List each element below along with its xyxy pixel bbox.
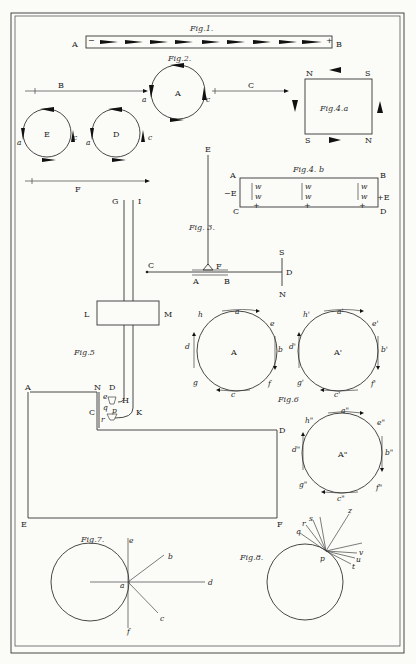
fig8-r: r bbox=[302, 519, 306, 528]
fig4b-title: Fig.4. b bbox=[292, 165, 324, 174]
fig2-label-a: a bbox=[142, 95, 146, 104]
fig7-c: c bbox=[160, 614, 165, 623]
fig6-c1-e: e bbox=[270, 319, 275, 328]
fig6-c2-h: h' bbox=[303, 310, 310, 319]
fig4a-nw: N bbox=[306, 69, 313, 78]
fig6-c1-a: a bbox=[235, 307, 239, 316]
fig6-c3-e: e" bbox=[377, 418, 385, 427]
fig6-c2-d: d' bbox=[289, 342, 296, 351]
fig6-c2-a: a' bbox=[337, 307, 344, 316]
fig5-i: I bbox=[138, 197, 141, 206]
fig4b-w3: w bbox=[305, 182, 312, 191]
fig7-f: f bbox=[126, 627, 131, 636]
fig4b-c: C bbox=[233, 207, 239, 216]
fig2-label-c-line: C bbox=[248, 81, 254, 90]
fig2-center-a: A bbox=[174, 89, 181, 98]
fig4b-plus3: + bbox=[359, 201, 366, 210]
fig5-a: A bbox=[24, 383, 31, 392]
fig4b: Fig.4. b A B C D −E +E w w w w w w + + + bbox=[224, 165, 390, 216]
fig4b-right-e: +E bbox=[377, 193, 390, 202]
fig5-m: M bbox=[164, 310, 172, 319]
fig5-n: N bbox=[94, 383, 101, 392]
fig6-c1-center: A bbox=[230, 348, 237, 357]
fig2-title: Fig.2. bbox=[167, 54, 191, 63]
fig3: E Fig. 3. C A B F S D N bbox=[146, 145, 293, 299]
fig2-center-e: E bbox=[44, 130, 50, 139]
fig1-plus: + bbox=[326, 36, 333, 45]
fig6-c3-a: a" bbox=[341, 406, 349, 415]
fig4b-d: D bbox=[380, 207, 386, 216]
fig6-c3-f: f" bbox=[375, 483, 382, 492]
fig6-c3-g: g" bbox=[299, 480, 307, 489]
fig1-label-a: A bbox=[71, 40, 78, 49]
fig5-c: C bbox=[89, 408, 95, 417]
fig4a-title: Fig.4.a bbox=[319, 104, 348, 113]
fig4a-ne: S bbox=[365, 69, 370, 78]
fig2-label-f: F bbox=[75, 185, 81, 194]
fig8: Fig.8. p q r s z v u t bbox=[239, 506, 364, 620]
fig2: Fig.2. A a c B C E a c D a c F bbox=[17, 54, 289, 194]
fig4b-w1: w bbox=[255, 182, 262, 191]
fig5: G I L M Fig.5 A N D H C K e q p r D E F bbox=[21, 197, 285, 529]
fig1-label-b: B bbox=[336, 40, 342, 49]
fig4b-a: A bbox=[229, 171, 236, 180]
fig6-c2-b: b' bbox=[381, 345, 388, 354]
fig5-e: e bbox=[103, 392, 108, 401]
fig6-c1-b: b bbox=[278, 345, 283, 354]
fig4b-w6: w bbox=[361, 192, 368, 201]
fig3-a: A bbox=[192, 277, 199, 286]
fig6-title: Fig.6 bbox=[277, 395, 299, 404]
fig3-n: N bbox=[279, 290, 286, 299]
fig6-c1-f: f bbox=[267, 379, 272, 388]
fig4b-plus2: + bbox=[304, 201, 311, 210]
fig6-c1-d: d bbox=[185, 342, 190, 351]
fig6-c3-c: c" bbox=[337, 494, 345, 503]
fig1-arrows bbox=[100, 40, 322, 44]
fig7: Fig.7. a b c d e f bbox=[51, 535, 213, 636]
fig4a: N S S N Fig.4.a bbox=[292, 67, 383, 145]
fig1: Fig.1. A B − + bbox=[71, 24, 342, 49]
fig3-f: F bbox=[216, 262, 222, 271]
fig6-c2-c: c' bbox=[334, 390, 340, 399]
fig6-c1-g: g bbox=[193, 378, 198, 387]
fig6-c2-g: g' bbox=[297, 378, 304, 387]
fig2-d-c: c bbox=[148, 133, 153, 142]
fig5-k: K bbox=[136, 408, 143, 417]
fig5-e-corner: E bbox=[21, 520, 27, 529]
fig3-title: Fig. 3. bbox=[188, 223, 215, 232]
fig5-h: H bbox=[122, 396, 129, 405]
fig1-minus: − bbox=[88, 36, 95, 45]
fig6-c2-center: A' bbox=[333, 348, 342, 357]
fig2-d-a: a bbox=[86, 138, 90, 147]
fig4a-sw: S bbox=[305, 136, 310, 145]
fig4b-w5: w bbox=[361, 182, 368, 191]
fig3-e: E bbox=[205, 145, 211, 154]
fig5-g: G bbox=[112, 197, 118, 206]
fig6-c1-h: h bbox=[198, 310, 203, 319]
fig3-d: D bbox=[286, 268, 292, 277]
fig3-c: C bbox=[148, 261, 154, 270]
fig5-title: Fig.5 bbox=[73, 348, 95, 357]
fig4b-left-e: −E bbox=[224, 189, 237, 198]
fig8-p: p bbox=[320, 554, 325, 563]
fig3-b: B bbox=[224, 277, 230, 286]
fig8-u: u bbox=[356, 555, 361, 564]
fig2-center-d: D bbox=[113, 130, 119, 139]
fig5-l: L bbox=[84, 310, 90, 319]
fig4b-w4: w bbox=[305, 192, 312, 201]
fig5-q: q bbox=[103, 403, 108, 412]
fig5-r: r bbox=[101, 415, 105, 424]
fig5-f: F bbox=[277, 520, 283, 529]
fig3-s: S bbox=[279, 248, 284, 257]
engraving-plate: Fig.1. A B − + Fig.2. A a c B C E a c bbox=[0, 0, 416, 664]
fig5-d: D bbox=[279, 426, 285, 435]
fig6: A a b c d e f g h A' a' b' c' d' e' f' g… bbox=[185, 307, 393, 503]
fig8-title: Fig.8. bbox=[239, 553, 263, 562]
fig6-c3-h: h" bbox=[305, 416, 313, 425]
fig4a-se: N bbox=[365, 136, 372, 145]
fig6-c2-e: e' bbox=[372, 319, 379, 328]
fig4b-w2: w bbox=[255, 192, 262, 201]
fig8-q: q bbox=[296, 527, 301, 536]
fig5-d-small: D bbox=[109, 383, 115, 392]
fig7-b: b bbox=[168, 552, 173, 561]
